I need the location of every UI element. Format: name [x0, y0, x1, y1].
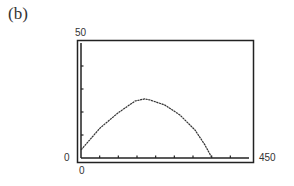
ticks — [81, 66, 230, 158]
data-curve — [81, 99, 212, 158]
chart-plot — [0, 0, 294, 186]
axes — [81, 43, 249, 158]
window-frame — [78, 41, 254, 163]
